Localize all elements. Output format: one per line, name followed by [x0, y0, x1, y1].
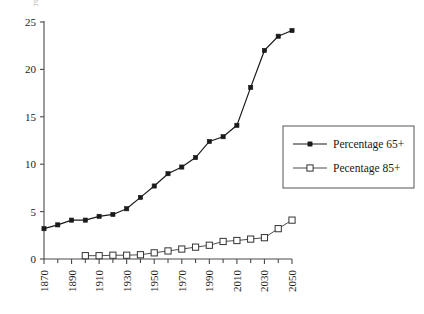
data-point-marker	[207, 139, 211, 143]
data-point-marker	[289, 217, 295, 223]
data-point-marker	[165, 248, 171, 254]
x-tick-label: 2050	[286, 270, 298, 293]
x-tick-label: 1890	[66, 270, 78, 293]
data-point-marker	[166, 172, 170, 176]
data-point-marker	[111, 212, 115, 216]
x-axis-ticks	[44, 259, 292, 264]
data-point-marker	[248, 236, 254, 242]
data-point-marker	[180, 165, 184, 169]
data-point-marker	[42, 227, 46, 231]
x-tick-label: 1930	[121, 270, 133, 293]
data-point-marker	[69, 218, 73, 222]
y-tick-label: 20	[25, 63, 37, 75]
data-point-marker	[83, 218, 87, 222]
x-tick-label: 1950	[148, 270, 160, 293]
y-tick-label: 10	[25, 158, 37, 170]
data-point-marker	[96, 253, 102, 259]
data-point-marker	[124, 252, 130, 258]
data-point-marker	[137, 252, 143, 258]
data-point-marker	[192, 244, 198, 250]
data-point-marker	[262, 48, 266, 52]
data-point-marker	[221, 135, 225, 139]
legend-item-label: Pecentage 85+	[333, 162, 400, 175]
series-percentage-65plus	[42, 28, 294, 230]
data-point-marker	[220, 238, 226, 244]
x-tick-label: 1870	[38, 270, 50, 293]
data-point-marker	[235, 123, 239, 127]
legend-item-label: Percentage 65+	[333, 138, 404, 151]
x-tick-label: 1910	[93, 270, 105, 293]
y-axis-tick-labels: 0510152025	[25, 16, 37, 265]
x-axis: 1870189019101930195019701990201020302050	[38, 259, 298, 292]
y-tick-label: 15	[25, 111, 37, 123]
y-tick-label: 0	[31, 253, 37, 265]
data-point-marker	[276, 34, 280, 38]
y-tick-label: 5	[31, 206, 37, 218]
data-point-marker	[206, 242, 212, 248]
data-point-marker	[193, 155, 197, 159]
legend-marker-sample	[307, 165, 313, 171]
y-axis: 0510152025	[25, 16, 44, 265]
legend-marker-sample	[308, 142, 312, 146]
data-point-marker	[290, 28, 294, 32]
data-point-marker	[234, 237, 240, 243]
data-point-marker	[110, 252, 116, 258]
x-tick-label: 1970	[176, 270, 188, 293]
x-axis-tick-labels: 1870189019101930195019701990201020302050	[38, 270, 298, 293]
data-point-marker	[261, 235, 267, 241]
x-tick-label: 1990	[203, 270, 215, 293]
data-point-marker	[275, 226, 281, 232]
data-point-marker	[179, 246, 185, 252]
data-point-marker	[125, 207, 129, 211]
chart-legend: Percentage 65+Pecentage 85+	[283, 126, 414, 188]
y-tick-label: 25	[25, 16, 37, 28]
data-point-marker	[152, 184, 156, 188]
legend-border	[283, 126, 414, 188]
data-point-marker	[97, 214, 101, 218]
series-polyline	[44, 31, 292, 229]
data-point-marker	[138, 195, 142, 199]
data-point-marker	[151, 250, 157, 256]
line-chart-canvas: 0510152025 18701890191019301950197019902…	[0, 0, 424, 314]
data-point-marker	[249, 85, 253, 89]
data-point-marker	[82, 253, 88, 259]
x-tick-label: 2010	[231, 270, 243, 293]
y-axis-ticks	[40, 22, 44, 259]
series-percentage-85plus	[82, 217, 295, 259]
chart-figure: g 0510152025 187018901910193019501970199…	[0, 0, 424, 314]
data-point-marker	[56, 223, 60, 227]
x-tick-label: 2030	[258, 270, 270, 293]
